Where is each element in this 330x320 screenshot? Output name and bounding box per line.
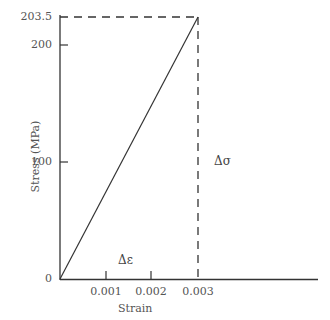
stress-strain-line xyxy=(60,17,198,279)
delta-sigma-annotation: Δσ xyxy=(214,154,231,168)
y-tick-label-100: 100 xyxy=(2,155,52,168)
x-tick-label-0.003: 0.003 xyxy=(178,285,218,298)
y-axis-label: Stress (MPa) xyxy=(29,112,42,202)
x-tick-label-0.001: 0.001 xyxy=(86,285,126,298)
delta-epsilon-annotation: Δε xyxy=(118,253,133,267)
y-tick-label-200: 200 xyxy=(2,38,52,51)
x-axis-label: Strain xyxy=(118,302,152,315)
y-tick-label-203.5: 203.5 xyxy=(2,10,52,23)
x-tick-label-0.002: 0.002 xyxy=(131,285,171,298)
y-tick-label-0: 0 xyxy=(2,272,52,285)
